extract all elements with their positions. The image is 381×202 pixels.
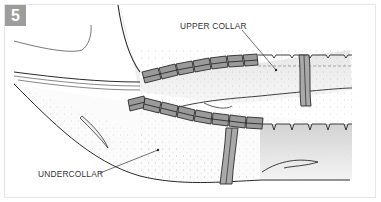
lapel-lines (14, 72, 140, 82)
upper-collar-outline (118, 5, 140, 72)
garment-edge-curve (14, 25, 91, 51)
undercollar-label: UNDERCOLLAR (38, 168, 103, 179)
upper-collar-label: UPPER COLLAR (180, 20, 247, 31)
